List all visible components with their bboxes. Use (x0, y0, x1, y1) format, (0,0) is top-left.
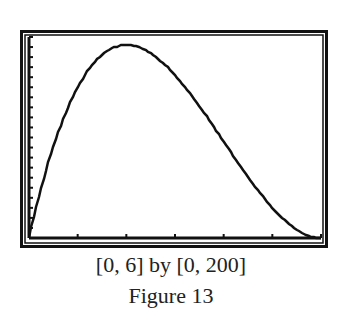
figure-caption: Figure 13 (0, 283, 342, 309)
inner-border (25, 35, 323, 243)
plot-area (23, 33, 325, 245)
window-caption: [0, 6] by [0, 200] (0, 252, 342, 278)
calculator-screen-frame (20, 30, 328, 248)
function-curve (29, 45, 321, 238)
